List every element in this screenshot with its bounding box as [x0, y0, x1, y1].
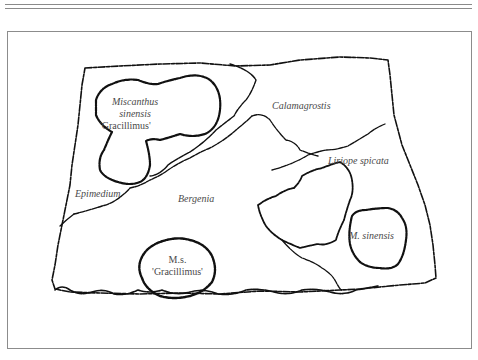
label-miscanthus-line1: Miscanthus	[112, 96, 158, 108]
label-epimedium: Epimedium	[75, 188, 121, 200]
label-liriope-spicata: Liriope spicata	[328, 155, 389, 167]
epimedium-west-boundary	[60, 214, 74, 226]
label-miscanthus: Miscanthus sinensis	[112, 96, 158, 120]
label-calamagrostis: Calamagrostis	[272, 100, 331, 112]
label-ms-line1: M.s.	[145, 254, 210, 266]
label-ms-gracillimus: M.s. 'Gracillimus'	[145, 254, 210, 278]
label-miscanthus-cultivar: 'Gracillimus'	[100, 120, 151, 132]
label-ms-line2: 'Gracillimus'	[145, 266, 210, 278]
bergenia-east-boundary	[282, 240, 342, 290]
bergenia-north-boundary	[252, 115, 318, 156]
liriope-bed-outline	[258, 162, 353, 248]
planting-plan-drawing	[0, 0, 478, 360]
label-miscanthus-line2: sinensis	[112, 108, 158, 120]
label-bergenia: Bergenia	[178, 193, 214, 205]
outer-bed-outline	[52, 57, 436, 294]
label-m-sinensis: M. sinensis	[349, 230, 394, 242]
